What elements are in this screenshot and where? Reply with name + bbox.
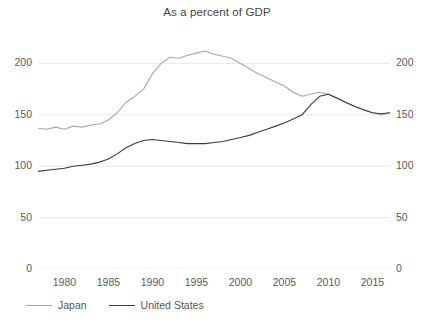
series-line-united-states [38,94,390,171]
legend-swatch-icon [26,305,52,306]
x-axis-tick-label: 1980 [44,276,84,288]
y-axis-right-tick-label: 100 [396,159,426,171]
y-axis-left-tick-label: 150 [6,108,32,120]
x-axis-tick-label: 1985 [88,276,128,288]
page-title: As a percent of GDP [0,6,434,18]
legend-item-japan[interactable]: Japan [26,299,87,311]
x-axis-tick-label: 1990 [132,276,172,288]
gridlines-group [38,63,390,269]
y-axis-left-tick-label: 100 [6,159,32,171]
y-axis-right-tick-label: 200 [396,56,426,68]
series-group [38,51,390,171]
legend-item-label: Japan [58,299,87,311]
y-axis-right-tick-label: 50 [396,211,426,223]
x-axis-tick-label: 2010 [308,276,348,288]
chart-legend: JapanUnited States [26,299,204,311]
x-axis-tick-label: 1995 [176,276,216,288]
chart-canvas [38,48,390,269]
y-axis-left-tick-label: 50 [6,211,32,223]
y-axis-left-tick-label: 0 [6,262,32,274]
y-axis-right-tick-label: 0 [396,262,426,274]
legend-item-united-states[interactable]: United States [109,299,204,311]
legend-swatch-icon [109,305,135,306]
y-axis-left-tick-label: 200 [6,56,32,68]
plot-area [38,48,390,269]
x-axis-tick-label: 2000 [220,276,260,288]
chart-figure: As a percent of GDP 050100150200 0501001… [0,0,434,326]
legend-item-label: United States [141,299,204,311]
y-axis-right-tick-label: 150 [396,108,426,120]
x-axis-tick-label: 2005 [264,276,304,288]
series-line-japan [38,51,390,129]
x-axis-tick-label: 2015 [352,276,392,288]
